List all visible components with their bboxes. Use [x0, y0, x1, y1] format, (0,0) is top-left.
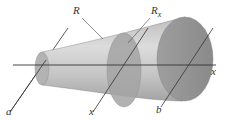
left-end-face: [35, 52, 49, 85]
label-Rx-main: R: [151, 4, 158, 16]
cross-section-rx: [107, 33, 141, 107]
label-R: R: [73, 5, 80, 16]
label-axis-x: x: [211, 66, 216, 77]
label-x: x: [89, 106, 94, 117]
solid-of-revolution-diagram: [0, 0, 226, 120]
right-end-face: [157, 17, 213, 101]
leader-R: [82, 18, 103, 39]
label-Rx-sub: x: [158, 10, 162, 19]
label-b: b: [156, 104, 162, 115]
label-a: a: [6, 106, 12, 117]
label-Rx: Rx: [151, 5, 161, 16]
